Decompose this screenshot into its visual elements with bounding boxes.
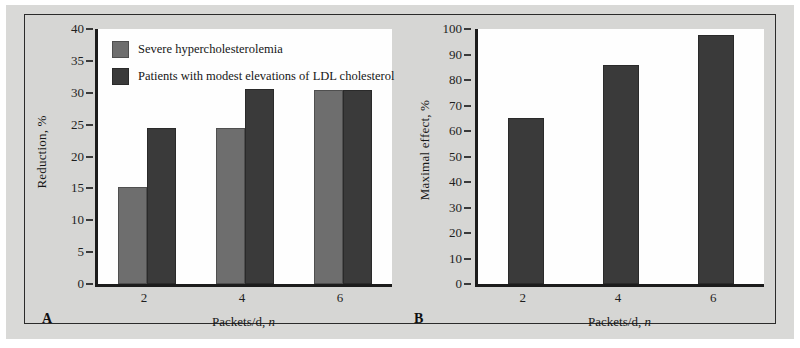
y-tick-label: 10 [449,250,462,267]
panel-letter-a: A [42,311,52,327]
bar-a-6-s1 [314,90,343,284]
x-axis-title-a-text: Packets/d, [212,314,268,329]
panel-letter-b: B [414,311,423,327]
bar-a-4-s2 [245,89,274,284]
y-tick-label: 10 [71,211,84,228]
y-tick-mark [86,92,93,94]
y-tick-mark [86,124,93,126]
x-axis-title-b-italic: n [644,314,651,329]
y-axis-ticks-a: 0510152025303540 [29,29,93,284]
legend-item-severe: Severe hypercholesterolemia [112,38,382,60]
y-tick-label: 50 [449,148,462,165]
y-tick-mark [464,79,471,81]
y-tick-mark [86,28,93,30]
bar-b-2-s1 [508,118,544,285]
figure-container: Reduction, % 0510152025303540 Severe hyp… [0,0,800,348]
bar-a-2-s1 [118,187,147,284]
x-tick-label-a-6: 6 [337,290,344,306]
y-tick-label: 80 [449,71,462,88]
y-tick-mark [464,258,471,260]
y-tick-label: 90 [449,46,462,63]
bar-a-4-s1 [216,128,245,284]
legend-label-modest: Patients with modest elevations of LDL c… [138,68,394,85]
y-tick-label: 15 [71,179,84,196]
panel-b: Maximal effect, % 0102030405060708090100… [400,14,776,324]
y-tick-label: 0 [456,275,463,292]
y-tick-label: 20 [71,148,84,165]
x-tick-label-b-2: 2 [519,290,526,306]
bar-b-4-s1 [603,65,639,284]
y-tick-label: 70 [449,97,462,114]
bar-b-6-s1 [698,35,734,284]
y-tick-mark [464,283,471,285]
bars-group-b [478,29,764,284]
y-tick-mark [464,232,471,234]
y-tick-label: 5 [78,243,85,260]
y-tick-mark [86,219,93,221]
x-axis-labels-b: 246 [475,290,764,312]
y-tick-mark [464,181,471,183]
y-tick-mark [86,283,93,285]
legend-swatch-icon-light [112,41,129,58]
y-tick-label: 30 [449,199,462,216]
y-tick-label: 35 [71,52,84,69]
x-tick-label-a-2: 2 [141,290,148,306]
y-tick-label: 30 [71,84,84,101]
bar-a-6-s2 [343,90,372,284]
plot-area-a: Severe hypercholesterolemia Patients wit… [95,29,392,287]
y-tick-mark [464,105,471,107]
panel-a: Reduction, % 0510152025303540 Severe hyp… [24,14,400,324]
y-tick-label: 60 [449,122,462,139]
x-axis-title-b: Packets/d, n [475,314,764,330]
y-tick-label: 20 [449,224,462,241]
y-axis-ticks-b: 0102030405060708090100 [407,29,471,284]
y-tick-mark [86,251,93,253]
x-tick-label-a-4: 4 [239,290,246,306]
y-tick-mark [464,28,471,30]
y-tick-label: 25 [71,116,84,133]
y-tick-mark [464,156,471,158]
y-tick-mark [86,156,93,158]
y-tick-mark [86,187,93,189]
y-tick-label: 0 [78,275,85,292]
y-tick-label: 40 [71,20,84,37]
x-tick-label-b-6: 6 [710,290,717,306]
legend-item-modest: Patients with modest elevations of LDL c… [112,65,382,87]
x-axis-title-b-text: Packets/d, [588,314,644,329]
legend-label-severe: Severe hypercholesterolemia [138,41,283,58]
y-tick-label: 40 [449,173,462,190]
bar-a-2-s2 [147,128,176,284]
x-axis-labels-a: 246 [95,290,392,312]
y-tick-mark [464,207,471,209]
y-tick-mark [464,130,471,132]
y-tick-mark [86,60,93,62]
plot-area-b [475,29,764,287]
legend-a: Severe hypercholesterolemia Patients wit… [112,38,382,92]
x-tick-label-b-4: 4 [615,290,622,306]
x-axis-title-a-italic: n [268,314,275,329]
x-axis-title-a: Packets/d, n [95,314,392,330]
legend-swatch-icon-dark [112,68,129,85]
y-tick-label: 100 [443,20,463,37]
y-tick-mark [464,54,471,56]
